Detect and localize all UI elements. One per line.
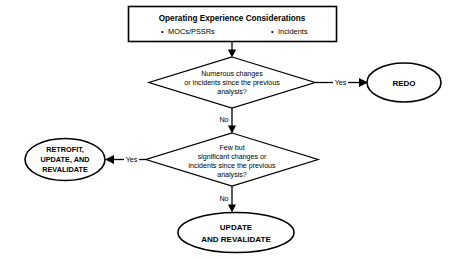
header-bullet-marker-1: • bbox=[271, 27, 274, 36]
terminal-update-line-0: UPDATE bbox=[220, 223, 253, 232]
header-bullet-label-mocs-pssrs: MOCs/PSSRs bbox=[168, 27, 215, 36]
arrowhead-decision2-no bbox=[228, 205, 236, 213]
terminal-update-revalidate bbox=[178, 213, 294, 253]
header-bullet-marker-0: • bbox=[161, 27, 164, 36]
decision2-line-0: Few but bbox=[219, 144, 244, 152]
edge-label-decision1-yes: Yes bbox=[335, 78, 347, 87]
header-box bbox=[129, 7, 337, 42]
edge-label-decision1-no: No bbox=[219, 115, 228, 124]
arrowhead-decision2-yes bbox=[105, 155, 114, 164]
decision1-line-2: analysis? bbox=[217, 88, 247, 96]
terminal-redo-label: REDO bbox=[392, 79, 415, 88]
flowchart-diagram: Operating Experience Considerations • MO… bbox=[0, 0, 458, 259]
edge-label-decision2-yes: Yes bbox=[126, 155, 138, 164]
terminal-retrofit-line-0: RETROFIT, bbox=[46, 145, 84, 154]
terminal-update-line-1: AND REVALIDATE bbox=[201, 235, 271, 244]
decision1-line-0: Numerous changes bbox=[201, 70, 263, 78]
header-bullet-label-incidents: Incidents bbox=[278, 27, 308, 36]
arrowhead-decision1-no bbox=[228, 126, 236, 134]
decision1-line-1: or incidents since the previous bbox=[184, 79, 280, 87]
terminal-retrofit-line-2: REVALIDATE bbox=[42, 165, 88, 174]
decision2-line-2: incidents since the previous bbox=[188, 162, 276, 170]
edge-label-decision2-no: No bbox=[219, 194, 228, 203]
terminal-retrofit-line-1: UPDATE, AND bbox=[40, 155, 89, 164]
decision2-line-1: significant changes or bbox=[198, 153, 267, 161]
decision2-line-3: analysis? bbox=[217, 171, 247, 179]
arrowhead-header-to-decision1 bbox=[228, 50, 236, 58]
header-title: Operating Experience Considerations bbox=[159, 14, 306, 23]
flowchart-canvas: Operating Experience Considerations • MO… bbox=[0, 0, 458, 259]
